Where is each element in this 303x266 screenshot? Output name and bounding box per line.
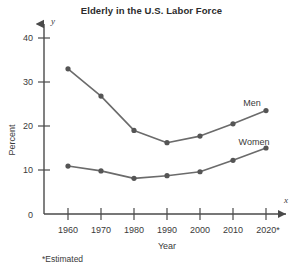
y-tick-label-20: 20 <box>23 121 33 131</box>
y-axis-variable-label: y <box>50 16 55 26</box>
x-tick-label-1960: 1960 <box>58 225 78 235</box>
y-axis-title: Percent <box>7 124 17 156</box>
footnote-estimated: *Estimated <box>42 254 83 264</box>
y-tick-label-0: 0 <box>28 210 33 220</box>
data-point <box>98 93 103 98</box>
x-tick-label-1980: 1980 <box>124 225 144 235</box>
y-tick-label-40: 40 <box>23 33 33 43</box>
data-point <box>230 158 235 163</box>
data-point <box>230 121 235 126</box>
series-label-men: Men <box>243 98 261 108</box>
data-point <box>164 140 169 145</box>
data-point <box>98 168 103 173</box>
x-tick-label-2010: 2010 <box>223 225 243 235</box>
chart-container: Elderly in the U.S. Labor Force y x 40 3… <box>0 0 303 266</box>
data-point <box>197 134 202 139</box>
data-point <box>263 108 268 113</box>
data-point <box>131 176 136 181</box>
y-tick-label-30: 30 <box>23 77 33 87</box>
series-markers-women <box>65 145 268 181</box>
y-tick-label-10: 10 <box>23 165 33 175</box>
data-point <box>65 163 70 168</box>
series-label-women: Women <box>239 137 270 147</box>
x-tick-label-1970: 1970 <box>91 225 111 235</box>
x-tick-label-1990: 1990 <box>157 225 177 235</box>
data-point <box>164 173 169 178</box>
series-line-men <box>68 69 266 143</box>
series-markers-men <box>65 66 268 145</box>
data-point <box>131 128 136 133</box>
line-chart-plot: y x 40 30 20 10 0 Percent 1960 1970 1980… <box>0 0 303 266</box>
x-axis-variable-label: x <box>283 195 288 205</box>
data-point <box>197 169 202 174</box>
x-tick-label-2000: 2000 <box>190 225 210 235</box>
x-tick-label-2020: 2020* <box>256 225 280 235</box>
x-axis-title: Year <box>158 241 176 251</box>
data-point <box>65 66 70 71</box>
